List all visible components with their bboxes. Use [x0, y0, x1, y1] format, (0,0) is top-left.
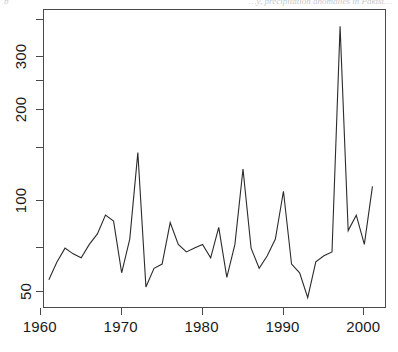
x-tick-label: 1970: [86, 318, 156, 335]
x-tick: [40, 308, 41, 315]
y-tick: [36, 56, 43, 57]
y-tick: [36, 80, 43, 81]
y-tick-label-text: 100: [13, 187, 30, 213]
y-tick: [36, 147, 43, 148]
x-tick-label: 2000: [328, 318, 398, 335]
data-line-series: [44, 10, 387, 309]
x-tick-label: 1980: [167, 318, 237, 335]
y-tick-label: 200: [0, 100, 34, 118]
x-tick: [202, 308, 203, 315]
caption-top-right: …y, precipitation anomalies in Pakist…: [0, 0, 398, 6]
x-tick: [283, 308, 284, 315]
y-tick-label-text: 50: [17, 283, 34, 300]
y-tick-label: 100: [0, 191, 34, 209]
y-tick-label: 50: [0, 282, 34, 300]
chart-root: b …y, precipitation anomalies in Pakist……: [0, 0, 398, 352]
y-tick: [36, 19, 43, 20]
y-tick: [36, 109, 43, 110]
x-tick: [121, 308, 122, 315]
plot-area: [43, 9, 386, 308]
x-tick-label: 1990: [248, 318, 318, 335]
y-tick: [36, 200, 43, 201]
x-tick-label: 1960: [5, 318, 75, 335]
y-tick: [36, 247, 43, 248]
y-tick-label-text: 200: [13, 97, 30, 123]
y-tick-label: 300: [0, 47, 34, 65]
x-tick: [363, 308, 364, 315]
y-tick: [36, 291, 43, 292]
y-tick-label-text: 300: [13, 43, 30, 69]
